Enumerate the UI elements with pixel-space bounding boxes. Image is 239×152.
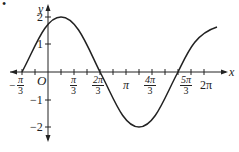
origin-label: O xyxy=(37,74,46,87)
bullet: • xyxy=(2,0,6,10)
x-tick-neg-pi3: π3 xyxy=(17,75,24,96)
x-tick-2pi: 2π xyxy=(200,79,212,91)
y-tick-2: 2 xyxy=(37,11,43,23)
y-tick-1: 1 xyxy=(37,38,43,50)
x-tick-2pi3: 2π3 xyxy=(92,75,104,96)
x-tick-pi3: π3 xyxy=(70,75,77,96)
x-tick-5pi3: 5π3 xyxy=(180,75,192,96)
x-tick-pi: π xyxy=(123,79,129,91)
y-tick-m1: −1 xyxy=(30,94,43,106)
x-axis-label: x xyxy=(229,66,234,78)
y-tick-m2: −2 xyxy=(30,121,43,133)
x-tick-4pi3: 4π3 xyxy=(144,75,156,96)
neg-sign: − xyxy=(9,80,15,91)
